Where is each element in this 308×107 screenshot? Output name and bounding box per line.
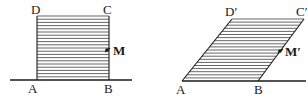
- hatch-lines-left: [37, 16, 109, 80]
- label-D-prime: D′: [225, 4, 237, 19]
- label-A: A: [28, 81, 38, 96]
- label-M-prime: M′: [285, 44, 301, 59]
- label-M: M: [113, 43, 125, 58]
- undeformed-block: D C M A B: [10, 2, 132, 96]
- sheared-block: D′ C′ M′ A B: [176, 4, 308, 97]
- label-D: D: [31, 2, 40, 17]
- label-A-right: A: [176, 82, 186, 97]
- label-C-prime: C′: [296, 4, 308, 19]
- label-B-right: B: [254, 82, 263, 97]
- label-C: C: [103, 2, 112, 17]
- shear-diagram: D C M A B D′ C′ M′ A B: [0, 0, 308, 107]
- label-B: B: [104, 81, 113, 96]
